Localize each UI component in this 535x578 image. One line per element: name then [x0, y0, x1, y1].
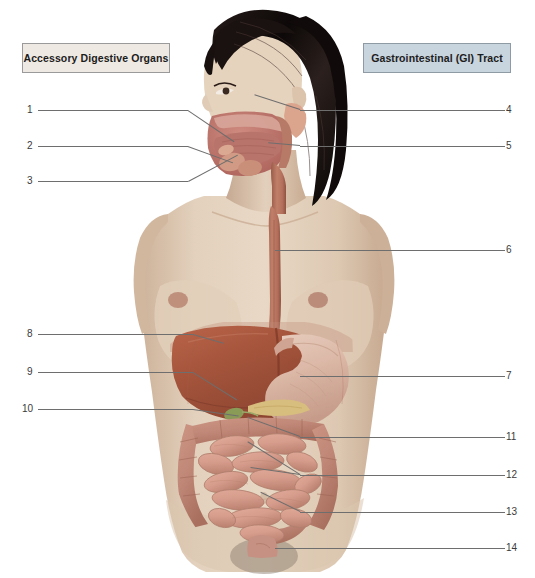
leader-line-5: [300, 146, 505, 147]
label-number-8: 8: [27, 329, 33, 339]
leader-line-7: [300, 376, 505, 377]
label-number-13: 13: [506, 507, 517, 517]
leader-line-9: [38, 372, 193, 373]
leader-line-10: [38, 409, 193, 410]
label-number-3: 3: [27, 176, 33, 186]
label-number-2: 2: [27, 141, 33, 151]
label-number-12: 12: [506, 470, 517, 480]
label-number-4: 4: [506, 105, 512, 115]
label-number-9: 9: [27, 367, 33, 377]
leader-line-4: [300, 110, 505, 111]
leader-line-14: [275, 548, 505, 549]
label-number-14: 14: [506, 543, 517, 553]
label-number-7: 7: [506, 371, 512, 381]
digestive-system-illustration: [0, 0, 535, 578]
label-number-1: 1: [27, 105, 33, 115]
legend-left-label: Accessory Digestive Organs: [23, 52, 168, 64]
leader-line-3: [38, 181, 188, 182]
anatomy-diagram-page: Accessory Digestive Organs Gastrointesti…: [0, 0, 535, 578]
leader-line-8: [38, 334, 193, 335]
leader-line-2: [38, 146, 188, 147]
legend-right-label: Gastrointestinal (GI) Tract: [371, 52, 503, 64]
label-number-10: 10: [22, 404, 33, 414]
leader-line-13: [300, 512, 505, 513]
leader-line-11: [300, 437, 505, 438]
legend-accessory-digestive-organs: Accessory Digestive Organs: [22, 43, 170, 73]
label-number-6: 6: [506, 245, 512, 255]
label-number-11: 11: [506, 432, 516, 442]
legend-gastrointestinal-tract: Gastrointestinal (GI) Tract: [363, 43, 511, 73]
label-number-5: 5: [506, 141, 512, 151]
leader-line-6: [275, 250, 505, 251]
leader-line-12: [300, 475, 505, 476]
leader-line-1: [38, 110, 188, 111]
